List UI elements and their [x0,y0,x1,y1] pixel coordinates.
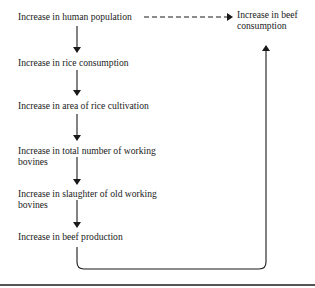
loop-arrow-beef-production-to-beef-consumption [77,46,266,269]
bottom-rule [0,284,315,286]
edges-layer [0,0,315,288]
